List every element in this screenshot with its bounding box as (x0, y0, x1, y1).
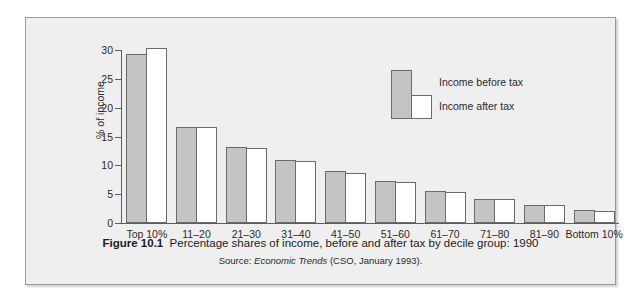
y-tick-label: 15 (73, 132, 113, 142)
legend-label-income-after-tax: Income after tax (439, 100, 514, 112)
bar-income-before-tax (176, 127, 197, 223)
y-tick-mark (115, 108, 122, 109)
bar-income-before-tax (375, 181, 396, 223)
bar-group (176, 34, 217, 223)
y-tick-label: 30 (73, 45, 113, 55)
y-tick-label: 25 (73, 74, 113, 84)
bar-income-before-tax (524, 205, 545, 223)
legend-label-income-before-tax: Income before tax (439, 76, 523, 88)
y-tick-mark (115, 137, 122, 138)
y-tick-label-text: 30 (79, 45, 113, 55)
bar-income-before-tax (425, 191, 446, 223)
bar-income-before-tax (574, 210, 595, 223)
figure-panel: 051015202530 % of income Top 10%11–2021–… (25, 17, 616, 285)
y-tick-label-text: 0 (79, 218, 113, 228)
figure-caption: Figure 10.1 Percentage shares of income,… (26, 236, 615, 251)
y-tick-mark (115, 165, 122, 166)
figure-source: Source: Economic Trends (CSO, January 19… (26, 254, 615, 268)
source-prefix: Source: (219, 255, 252, 266)
bar-income-after-tax (295, 161, 316, 223)
bar-income-after-tax (246, 148, 267, 223)
figure-caption-text: Percentage shares of income, before and … (170, 237, 539, 249)
y-tick-label: 5 (73, 189, 113, 199)
bar-group (474, 34, 515, 223)
chart-legend: Income before tax Income after tax (391, 70, 581, 126)
source-publication: Economic Trends (254, 255, 327, 266)
y-axis-title: % of income (94, 65, 106, 155)
bar-income-before-tax (226, 147, 247, 223)
chart-plot-area: 051015202530 % of income Top 10%11–2021–… (99, 34, 619, 224)
y-tick-label-text: 10 (79, 160, 113, 170)
y-tick-mark (115, 79, 122, 80)
bar-group (126, 34, 167, 223)
bar-income-before-tax (275, 160, 296, 223)
bar-income-after-tax (445, 192, 466, 223)
bar-group (226, 34, 267, 223)
bar-income-after-tax (594, 211, 615, 223)
source-detail: (CSO, January 1993). (330, 255, 422, 266)
bar-group (325, 34, 366, 223)
bar-group (524, 34, 565, 223)
bar-income-before-tax (474, 199, 495, 223)
y-tick-label: 0 (73, 218, 113, 228)
y-tick-mark (115, 194, 122, 195)
bar-income-after-tax (345, 173, 366, 223)
bar-income-after-tax (494, 199, 515, 223)
y-tick-label: 10 (73, 160, 113, 170)
bar-group (275, 34, 316, 223)
legend-swatch-income-before-tax (391, 70, 412, 119)
bars-layer (122, 34, 619, 224)
bar-income-after-tax (544, 205, 565, 223)
bar-income-after-tax (146, 48, 167, 223)
bar-income-after-tax (395, 182, 416, 223)
bar-income-before-tax (126, 54, 147, 223)
bar-group (375, 34, 416, 223)
y-tick-label: 20 (73, 103, 113, 113)
bar-group (574, 34, 615, 223)
bar-group (425, 34, 466, 223)
bar-income-after-tax (196, 127, 217, 223)
y-tick-mark (115, 50, 122, 51)
bar-income-before-tax (325, 171, 346, 223)
figure-caption-block: Figure 10.1 Percentage shares of income,… (26, 236, 615, 268)
y-tick-label-text: 5 (79, 189, 113, 199)
legend-swatch-income-after-tax (411, 95, 432, 119)
y-tick-mark (115, 223, 122, 224)
figure-number: Figure 10.1 (103, 237, 164, 249)
